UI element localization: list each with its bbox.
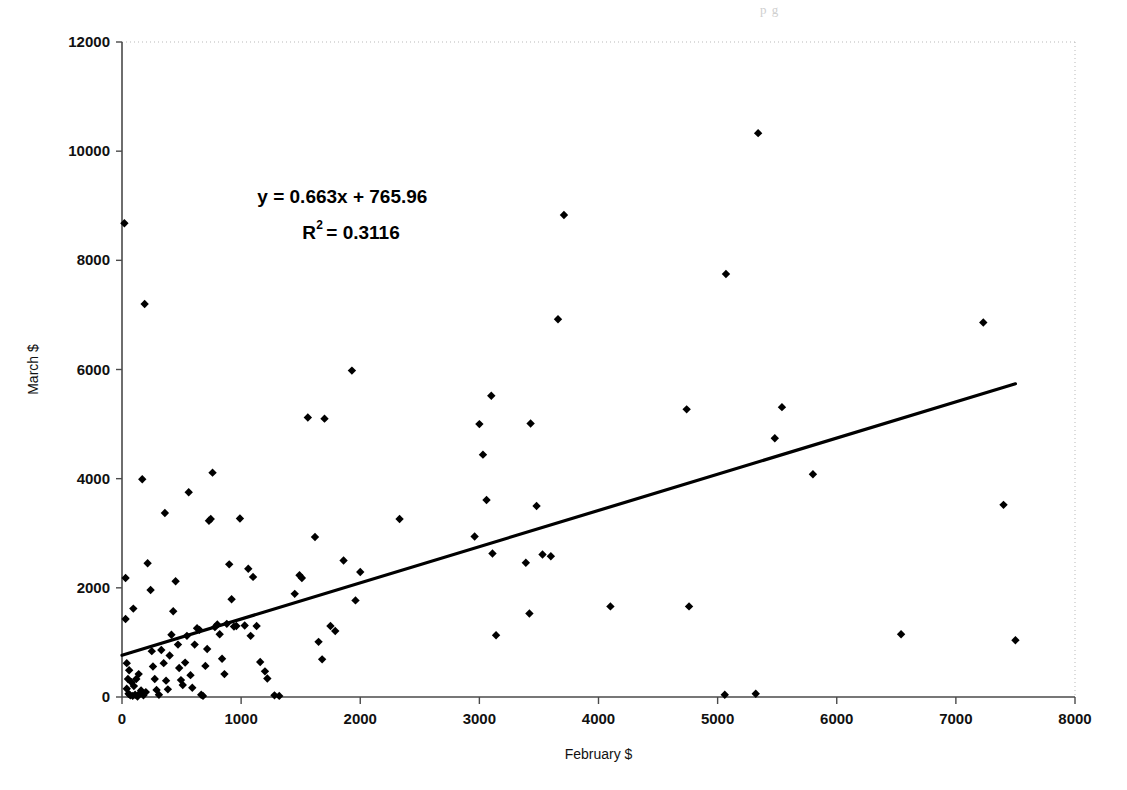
scatter-point (479, 450, 487, 458)
scatter-point (526, 419, 534, 427)
scatter-point (181, 658, 189, 666)
scatter-point (227, 595, 235, 603)
r-symbol: R (302, 222, 316, 243)
page-bleed-text: p g (760, 2, 779, 18)
scatter-point (151, 675, 159, 683)
scatter-point (979, 318, 987, 326)
y-tick-label: 2000 (77, 579, 110, 596)
scatter-point (146, 586, 154, 594)
scatter-point (201, 662, 209, 670)
scatter-point (356, 568, 364, 576)
scatter-point (304, 413, 312, 421)
scatter-point (522, 559, 530, 567)
r-exponent: 2 (316, 218, 323, 232)
scatter-point (185, 488, 193, 496)
scatter-point (171, 577, 179, 585)
scatter-point (246, 632, 254, 640)
trendline (122, 384, 1015, 655)
scatter-point (488, 549, 496, 557)
scatter-point (532, 502, 540, 510)
scatter-point (320, 414, 328, 422)
scatter-point (475, 420, 483, 428)
scatter-point (186, 671, 194, 679)
scatter-point (492, 631, 500, 639)
scatter-point (157, 646, 165, 654)
tick-marks-layer (116, 42, 1075, 704)
scatter-point (538, 550, 546, 558)
scatter-point (159, 659, 167, 667)
scatter-point (165, 651, 173, 659)
scatter-point (123, 659, 131, 667)
scatter-point (318, 655, 326, 663)
scatter-point (125, 666, 133, 674)
scatter-point (897, 630, 905, 638)
scatter-point (140, 300, 148, 308)
y-tick-label: 8000 (77, 251, 110, 268)
x-axis-tick-labels: 010002000300040005000600070008000 (118, 710, 1092, 727)
scatter-point (164, 685, 172, 693)
x-axis-title: February $ (565, 746, 633, 762)
scatter-point (169, 607, 177, 615)
scatter-point (161, 509, 169, 517)
scatter-point (236, 514, 244, 522)
scatter-point (778, 403, 786, 411)
scatter-point (348, 366, 356, 374)
scatter-point (256, 658, 264, 666)
y-tick-label: 0 (102, 688, 110, 705)
scatter-point (554, 315, 562, 323)
scatter-point (203, 645, 211, 653)
scatter-point (174, 640, 182, 648)
y-axis-tick-labels: 020004000600080001000012000 (68, 33, 110, 705)
scatter-point (263, 674, 271, 682)
scatter-chart-figure: p g 020004000600080001000012000 01000200… (0, 0, 1127, 790)
scatter-point (722, 270, 730, 278)
scatter-point (351, 596, 359, 604)
x-tick-label: 2000 (344, 710, 377, 727)
scatter-point (339, 556, 347, 564)
y-axis-title: March $ (25, 344, 41, 395)
x-tick-label: 7000 (939, 710, 972, 727)
scatter-point (138, 475, 146, 483)
scatter-point (395, 515, 403, 523)
scatter-point (190, 640, 198, 648)
scatter-point (606, 602, 614, 610)
scatter-point (754, 129, 762, 137)
scatter-point (685, 602, 693, 610)
scatter-point (218, 655, 226, 663)
scatter-point (291, 590, 299, 598)
scatter-point (220, 670, 228, 678)
scatter-point (525, 609, 533, 617)
scatter-point (482, 496, 490, 504)
x-tick-label: 8000 (1058, 710, 1091, 727)
scatter-point (275, 692, 283, 700)
x-tick-label: 3000 (463, 710, 496, 727)
scatter-point (162, 676, 170, 684)
scatter-point (487, 392, 495, 400)
y-tick-label: 4000 (77, 470, 110, 487)
scatter-point (547, 552, 555, 560)
r-squared-value: = 0.3116 (326, 222, 399, 243)
x-tick-label: 4000 (582, 710, 615, 727)
scatter-point (314, 638, 322, 646)
x-tick-label: 5000 (701, 710, 734, 727)
scatter-point (470, 532, 478, 540)
r-squared-label: R 2 = 0.3116 (302, 218, 399, 243)
y-tick-label: 10000 (68, 142, 110, 159)
axes-layer (122, 42, 1075, 697)
scatter-point (252, 622, 260, 630)
scatter-point (188, 684, 196, 692)
x-tick-label: 0 (118, 710, 126, 727)
scatter-point (809, 470, 817, 478)
chart-canvas: 020004000600080001000012000 010002000300… (0, 0, 1127, 790)
trendline-equation-label: y = 0.663x + 765.96 (257, 186, 427, 207)
scatter-point (129, 604, 137, 612)
scatter-point (225, 560, 233, 568)
trendline-layer (122, 384, 1015, 655)
scatter-point (149, 662, 157, 670)
scatter-point (249, 573, 257, 581)
scatter-point (240, 621, 248, 629)
scatter-point (175, 664, 183, 672)
x-tick-label: 6000 (820, 710, 853, 727)
scatter-point (999, 501, 1007, 509)
scatter-point (261, 667, 269, 675)
